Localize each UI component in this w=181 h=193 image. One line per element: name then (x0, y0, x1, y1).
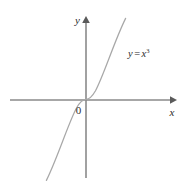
origin-label: 0 (76, 104, 82, 116)
curve-label-equals: = (134, 48, 140, 59)
y-axis-arrow-icon (82, 16, 90, 23)
y-axis-label: y (74, 14, 80, 26)
cubic-function-plot: y x 0 y=x3 (0, 0, 181, 193)
x-axis-arrow-icon (170, 96, 177, 104)
curve-equation-label: y=x3 (127, 47, 150, 59)
function-graph-figure: y x 0 y=x3 (0, 0, 181, 193)
curve-label-y: y (127, 48, 133, 59)
curve-label-exponent: 3 (146, 47, 149, 54)
x-axis-label: x (169, 106, 175, 118)
